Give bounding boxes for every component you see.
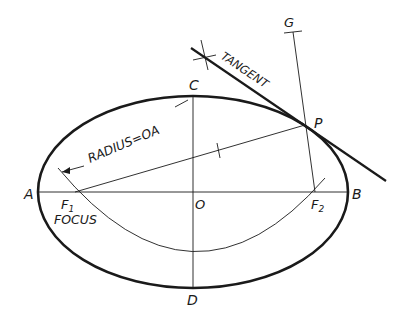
- label-d: D: [187, 292, 198, 308]
- label-f2: F2: [311, 197, 324, 214]
- arc-tick-c: [175, 100, 188, 107]
- tangent-line: [191, 48, 386, 181]
- label-c: C: [189, 77, 199, 93]
- label-focus: FOCUS: [54, 212, 97, 227]
- focal-line-f1p: [75, 125, 305, 192]
- label-radius: RADIUS=OA: [85, 122, 161, 166]
- focus-arc: [58, 168, 325, 252]
- radius-arrowhead: [62, 167, 70, 174]
- label-o: O: [195, 197, 205, 212]
- label-a: A: [23, 186, 34, 202]
- label-g: G: [284, 15, 294, 30]
- ellipse-diagram: A B C D O P G F1 F2 FOCUS RADIUS=OA TANG…: [0, 0, 403, 327]
- label-p: P: [314, 115, 323, 131]
- focal-line-f2g: [293, 32, 315, 192]
- label-b: B: [352, 186, 362, 202]
